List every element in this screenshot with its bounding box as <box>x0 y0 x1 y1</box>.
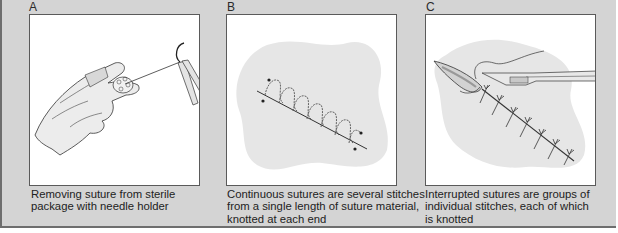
caption-line: from a single length of suture material, <box>227 200 427 212</box>
suture-figure: A <box>0 0 616 228</box>
illustration-frame <box>29 14 200 186</box>
continuous-suture-illustration <box>227 15 397 186</box>
caption-line: knotted at each end <box>227 213 427 225</box>
illustration-frame <box>425 14 596 186</box>
panel-letter: A <box>29 1 37 14</box>
hand-needle-holder-illustration <box>30 15 200 186</box>
interrupted-suture-illustration <box>426 15 596 186</box>
caption: Continuous sutures are several stitches … <box>227 188 427 225</box>
panel-letter: B <box>227 1 235 14</box>
panel-a: A <box>2 0 192 228</box>
panel-b: B <box>200 0 390 228</box>
caption-line: is knotted <box>425 213 618 225</box>
illustration-frame <box>226 14 397 186</box>
caption-line: individual stitches, each of which <box>425 200 618 212</box>
panel-letter: C <box>426 1 435 14</box>
caption-line: Interrupted sutures are groups of <box>425 188 618 200</box>
caption-line: Continuous sutures are several stitches <box>227 188 427 200</box>
panel-c: C <box>398 0 588 228</box>
caption: Interrupted sutures are groups of indivi… <box>425 188 618 225</box>
